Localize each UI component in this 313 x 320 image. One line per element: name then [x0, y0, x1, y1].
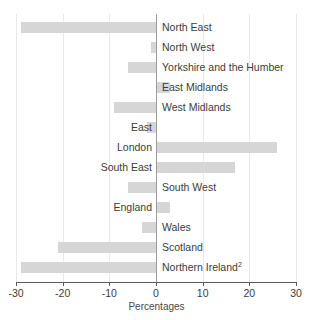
- bar-category-label: Scotland: [158, 238, 203, 258]
- bar: [156, 142, 277, 153]
- bar: [21, 262, 156, 273]
- bar-category-label: Yorkshire and the Humber: [158, 58, 284, 78]
- x-tick-mark: [109, 282, 110, 286]
- zero-axis-line: [156, 14, 157, 282]
- x-tick-mark: [296, 282, 297, 286]
- bar: [114, 102, 156, 113]
- bar-category-label: North West: [158, 38, 214, 58]
- x-tick-label: -20: [43, 287, 83, 299]
- bar-category-label: West Midlands: [158, 98, 231, 118]
- x-tick-mark: [63, 282, 64, 286]
- bar: [142, 222, 156, 233]
- x-axis-title: Percentages: [0, 301, 313, 312]
- x-tick-mark: [203, 282, 204, 286]
- x-tick-mark: [156, 282, 157, 286]
- x-tick-label: -30: [0, 287, 36, 299]
- x-tick-mark: [249, 282, 250, 286]
- x-tick-mark: [16, 282, 17, 286]
- x-tick-label: 0: [136, 287, 176, 299]
- bar-category-label: London: [117, 138, 156, 158]
- bar: [128, 182, 156, 193]
- x-tick-label: -10: [89, 287, 129, 299]
- bar-category-label: Wales: [158, 218, 191, 238]
- x-tick-label: 10: [183, 287, 223, 299]
- x-tick-label: 30: [276, 287, 313, 299]
- gridline: [296, 14, 297, 282]
- footnote-marker: 2: [238, 261, 242, 268]
- bar-category-label: South West: [158, 178, 216, 198]
- bar-category-label: East: [131, 118, 156, 138]
- bar: [156, 202, 170, 213]
- bar-category-label: East Midlands: [158, 78, 228, 98]
- bar: [128, 62, 156, 73]
- bar: [156, 162, 235, 173]
- x-tick-label: 20: [229, 287, 269, 299]
- bar-category-label: North East: [158, 18, 212, 38]
- bar: [21, 22, 156, 33]
- bar-category-label: South East: [101, 158, 156, 178]
- bar-category-label: Northern Ireland2: [158, 258, 242, 278]
- plot-area: North EastNorth WestYorkshire and the Hu…: [16, 14, 296, 282]
- bar: [58, 242, 156, 253]
- bar-category-label: England: [113, 198, 156, 218]
- bar-chart: North EastNorth WestYorkshire and the Hu…: [0, 0, 313, 320]
